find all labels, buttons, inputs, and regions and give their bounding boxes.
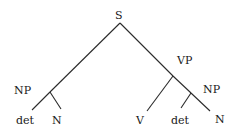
edge-np-det bbox=[32, 92, 50, 110]
node-np-subject: NP bbox=[14, 84, 32, 97]
edge-np-n bbox=[50, 92, 61, 109]
syntax-tree: S NP det N VP NP V det N bbox=[0, 0, 236, 133]
edge-np2-det bbox=[181, 93, 191, 108]
node-det-subject: det bbox=[16, 114, 35, 127]
node-n-object: N bbox=[215, 113, 225, 126]
node-v: V bbox=[135, 114, 145, 127]
edge-s-vp bbox=[120, 23, 173, 76]
node-det-object: det bbox=[171, 114, 190, 127]
edge-s-np bbox=[50, 23, 120, 92]
edge-vp-v bbox=[147, 76, 173, 111]
node-n-subject: N bbox=[52, 114, 62, 127]
node-s: S bbox=[115, 9, 123, 22]
node-np-object: NP bbox=[203, 83, 221, 96]
node-vp: VP bbox=[176, 54, 193, 67]
edge-vp-np bbox=[173, 76, 191, 93]
